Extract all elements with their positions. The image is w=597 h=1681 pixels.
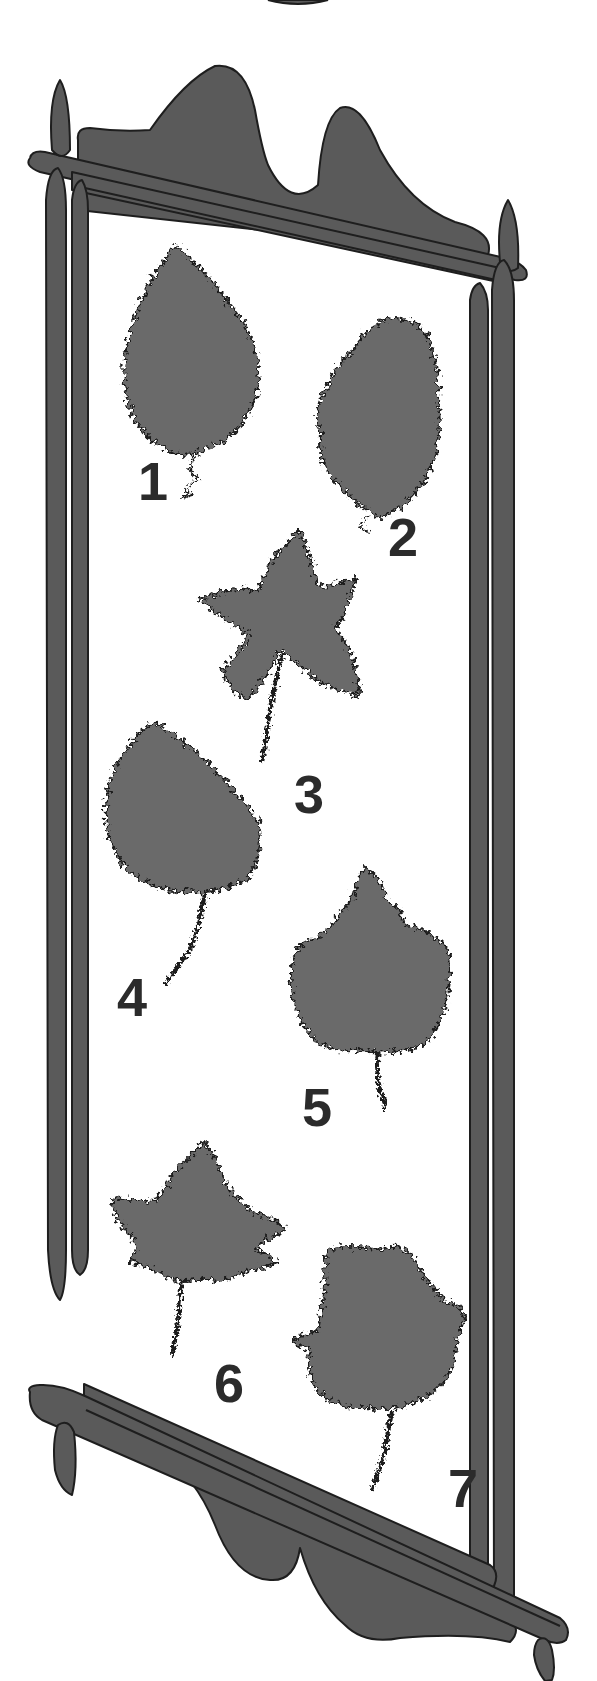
leaf-number-7: 7 bbox=[448, 1458, 478, 1518]
finial-top-left bbox=[51, 80, 70, 156]
leaf-4 bbox=[106, 722, 260, 985]
post-left-outer bbox=[46, 168, 66, 1300]
leaf-6 bbox=[110, 1142, 285, 1355]
post-left-inner bbox=[72, 180, 88, 1275]
leaf-7 bbox=[293, 1247, 465, 1490]
top-hanger bbox=[268, 0, 328, 4]
leaf-number-4: 4 bbox=[117, 967, 147, 1027]
leaf-number-3: 3 bbox=[294, 764, 324, 824]
leaf-3 bbox=[200, 530, 360, 762]
leaf-2 bbox=[317, 318, 440, 532]
leaves bbox=[106, 245, 465, 1490]
finial-bottom-left bbox=[54, 1423, 76, 1495]
post-right-outer bbox=[492, 260, 514, 1632]
finial-bottom-right bbox=[534, 1638, 554, 1681]
leaf-number-5: 5 bbox=[302, 1077, 332, 1137]
frame bbox=[28, 66, 568, 1681]
post-right-inner bbox=[470, 283, 488, 1590]
leaf-5 bbox=[292, 868, 451, 1110]
leaf-number-1: 1 bbox=[138, 451, 168, 511]
leaf-frame-illustration: 1 2 3 4 5 6 7 bbox=[0, 0, 597, 1681]
leaf-number-6: 6 bbox=[214, 1353, 244, 1413]
leaf-number-2: 2 bbox=[388, 507, 418, 567]
